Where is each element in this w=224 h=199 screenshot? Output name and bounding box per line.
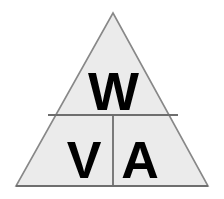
cell-label-volts: V xyxy=(67,131,102,189)
power-triangle-diagram: W V A xyxy=(0,0,224,199)
cell-label-watts: W xyxy=(88,61,139,121)
cell-label-amps: A xyxy=(121,131,159,189)
power-triangle-graphic: W V A xyxy=(0,0,224,199)
